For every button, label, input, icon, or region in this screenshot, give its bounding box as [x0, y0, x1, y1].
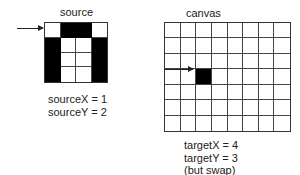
canvas-cell	[181, 116, 197, 131]
source-cell	[61, 38, 77, 53]
source-cell	[92, 23, 108, 38]
canvas-cell	[196, 85, 212, 100]
canvas-cell	[274, 54, 290, 69]
canvas-arrow	[165, 69, 193, 70]
canvas-filled-cell	[196, 69, 212, 84]
canvas-cell	[228, 38, 244, 53]
source-vars: sourceX = 1 sourceY = 2	[48, 93, 107, 118]
target-x-value: targetX = 4	[184, 139, 238, 152]
source-cell	[45, 67, 61, 82]
source-cell	[61, 23, 77, 38]
canvas-cell	[212, 116, 228, 131]
source-x-value: sourceX = 1	[48, 93, 107, 106]
canvas-cell	[212, 85, 228, 100]
canvas-cell	[243, 100, 259, 115]
canvas-cell	[274, 38, 290, 53]
canvas-cell	[228, 54, 244, 69]
canvas-cell	[243, 23, 259, 38]
source-cell	[76, 38, 92, 53]
canvas-cell	[212, 100, 228, 115]
source-cell	[76, 23, 92, 38]
canvas-cell	[243, 54, 259, 69]
canvas-cell	[274, 85, 290, 100]
source-cell	[61, 67, 77, 82]
canvas-cell	[165, 116, 181, 131]
canvas-cell	[212, 69, 228, 84]
source-grid	[44, 22, 108, 83]
canvas-cell	[196, 100, 212, 115]
source-y-value: sourceY = 2	[48, 106, 107, 119]
canvas-cell	[212, 54, 228, 69]
source-cell	[92, 38, 108, 53]
source-arrow	[17, 28, 43, 29]
canvas-cell	[212, 38, 228, 53]
canvas-cell	[165, 38, 181, 53]
source-cell	[61, 53, 77, 68]
canvas-cell	[228, 23, 244, 38]
canvas-cell	[259, 54, 275, 69]
canvas-cell	[181, 100, 197, 115]
source-cell	[92, 67, 108, 82]
canvas-cell	[196, 116, 212, 131]
canvas-cell	[212, 23, 228, 38]
canvas-cell	[274, 100, 290, 115]
canvas-cell	[181, 23, 197, 38]
source-cell	[45, 53, 61, 68]
canvas-cell	[259, 100, 275, 115]
source-cell	[76, 53, 92, 68]
canvas-cell	[243, 85, 259, 100]
canvas-cell	[165, 54, 181, 69]
target-y-value: targetY = 3	[184, 152, 238, 165]
canvas-cell	[243, 38, 259, 53]
target-vars: targetX = 4 targetY = 3 (but swap)	[184, 139, 238, 175]
canvas-cell	[259, 38, 275, 53]
swap-note: (but swap)	[184, 164, 238, 175]
canvas-cell	[196, 54, 212, 69]
canvas-cell	[165, 85, 181, 100]
canvas-cell	[274, 69, 290, 84]
source-title: source	[60, 6, 93, 18]
canvas-cell	[243, 116, 259, 131]
canvas-cell	[259, 85, 275, 100]
canvas-grid	[164, 22, 291, 132]
source-cell	[76, 67, 92, 82]
canvas-title: canvas	[186, 7, 221, 19]
canvas-cell	[181, 85, 197, 100]
canvas-cell	[228, 69, 244, 84]
canvas-cell	[196, 23, 212, 38]
source-cell	[45, 38, 61, 53]
source-cell	[92, 53, 108, 68]
canvas-cell	[243, 69, 259, 84]
source-cell	[45, 23, 61, 38]
canvas-cell	[259, 69, 275, 84]
canvas-cell	[165, 69, 181, 84]
canvas-cell	[274, 23, 290, 38]
canvas-cell	[274, 116, 290, 131]
canvas-cell	[181, 38, 197, 53]
canvas-cell	[165, 100, 181, 115]
canvas-cell	[196, 38, 212, 53]
canvas-cell	[165, 23, 181, 38]
canvas-cell	[228, 100, 244, 115]
canvas-cell	[259, 23, 275, 38]
canvas-cell	[259, 116, 275, 131]
canvas-cell	[228, 116, 244, 131]
canvas-cell	[228, 85, 244, 100]
